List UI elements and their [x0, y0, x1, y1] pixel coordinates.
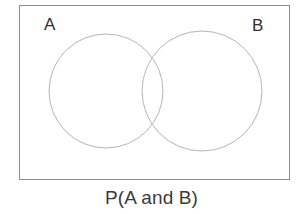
set-a-label: A: [44, 16, 56, 33]
universal-set-rectangle: [19, 5, 290, 180]
figure-caption: P(A and B): [0, 186, 303, 210]
venn-diagram-figure: A B P(A and B): [0, 0, 303, 214]
set-b-label: B: [252, 17, 264, 34]
